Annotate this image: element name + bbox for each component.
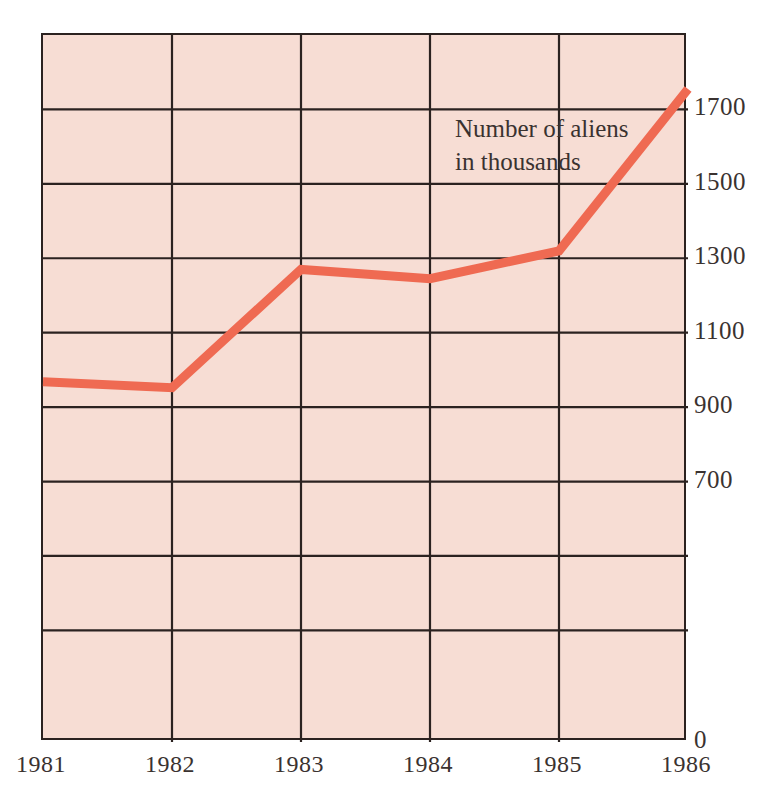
- y-axis-tick-1300: 1300: [694, 243, 746, 268]
- y-axis-tick-1100: 1100: [694, 318, 745, 343]
- y-axis-tick-1500: 1500: [694, 169, 746, 194]
- y-axis-tick-0: 0: [694, 727, 707, 752]
- y-axis-tick-900: 900: [694, 392, 733, 417]
- x-axis-tick-1981: 1981: [16, 752, 66, 776]
- line-chart-figure: 07009001100130015001700 1981198219831984…: [0, 0, 767, 811]
- chart-annotation: Number of aliens in thousands: [455, 112, 629, 178]
- x-axis-tick-1982: 1982: [145, 752, 195, 776]
- x-axis-tick-1986: 1986: [661, 752, 711, 776]
- y-axis-tick-700: 700: [694, 467, 733, 492]
- x-axis-tick-1983: 1983: [274, 752, 324, 776]
- x-axis-tick-1985: 1985: [532, 752, 582, 776]
- x-axis-tick-1984: 1984: [403, 752, 453, 776]
- y-axis-tick-1700: 1700: [694, 94, 746, 119]
